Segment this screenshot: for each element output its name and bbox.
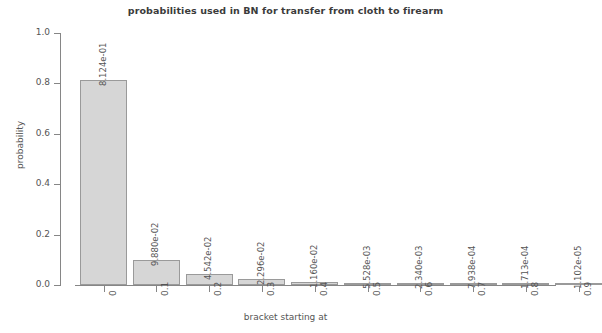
bar[interactable] (80, 80, 127, 285)
x-axis-tick (368, 286, 369, 292)
bar-value-label: 2.340e-03 (414, 246, 424, 289)
x-axis-tick (156, 286, 157, 292)
bar-value-label: 7.938e-04 (467, 246, 477, 289)
bar-value-label: 1.160e-02 (309, 245, 319, 288)
x-axis-tick-label: 0.8 (530, 282, 540, 296)
y-axis-tick-labels: 1.00.80.60.40.20.0 (0, 0, 50, 333)
x-axis-tick-label: 0.9 (583, 282, 593, 296)
x-axis-tick (209, 286, 210, 292)
y-axis-tick (54, 134, 61, 135)
bar-value-label: 4.542e-02 (203, 236, 213, 279)
bar-value-label: 8.124e-01 (98, 43, 108, 86)
x-axis-tick (262, 286, 263, 292)
x-axis-title: bracket starting at (0, 312, 571, 322)
y-axis-tick-label: 0.2 (0, 229, 50, 239)
x-axis-tick-label: 0.7 (477, 282, 487, 296)
bar-value-label: 2.296e-02 (256, 242, 266, 285)
bar-value-label: 5.528e-03 (362, 246, 372, 289)
y-axis-tick (54, 33, 61, 34)
y-axis-tick-label: 0.6 (0, 128, 50, 138)
x-axis-tick (104, 286, 105, 292)
x-axis-tick (420, 286, 421, 292)
x-axis-tick (315, 286, 316, 292)
bar-value-label: 9.880e-02 (150, 223, 160, 266)
x-axis-tick-label: 0.4 (319, 282, 329, 296)
x-axis-tick-label: 0.6 (424, 282, 434, 296)
y-axis-tick (54, 184, 61, 185)
chart-title: probabilities used in BN for transfer fr… (0, 5, 571, 16)
bar-value-label: 1.713e-04 (520, 246, 530, 289)
y-axis-title: probability (15, 95, 25, 195)
x-axis-tick (579, 286, 580, 292)
y-axis-tick (54, 285, 61, 286)
y-axis-tick (54, 83, 61, 84)
x-axis-tick (473, 286, 474, 292)
y-axis-tick (54, 235, 61, 236)
x-axis-tick-label: 0.5 (372, 282, 382, 296)
x-axis-tick (526, 286, 527, 292)
x-axis-tick-label: 0 (108, 290, 118, 296)
x-axis-tick-label: 0.3 (266, 282, 276, 296)
y-axis-tick-label: 0.0 (0, 279, 50, 289)
x-axis-tick-label: 0.1 (160, 282, 170, 296)
x-axis-tick-label: 0.2 (213, 282, 223, 296)
y-axis-tick-label: 1.0 (0, 27, 50, 37)
y-axis-tick-label: 0.4 (0, 178, 50, 188)
y-axis-tick-label: 0.8 (0, 77, 50, 87)
bar-value-label: 1.102e-05 (573, 246, 583, 289)
